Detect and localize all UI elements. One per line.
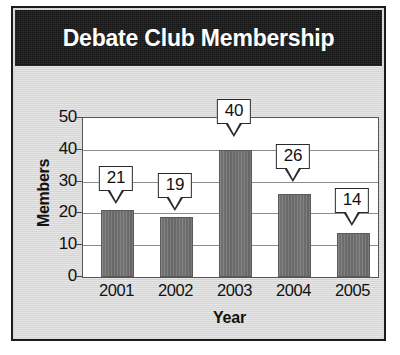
data-label-value: 14 xyxy=(335,188,369,213)
y-tick-label: 40 xyxy=(49,139,77,159)
data-label-callout-2003: 40 xyxy=(217,99,251,137)
data-label-value: 21 xyxy=(99,166,133,191)
bar-2004 xyxy=(278,194,311,277)
callout-pointer-icon xyxy=(226,124,242,137)
y-axis-tick-labels: 50 40 30 20 10 0 xyxy=(49,66,77,337)
x-tick-label: 2005 xyxy=(335,281,370,300)
chart-title-banner: Debate Club Membership xyxy=(15,10,382,66)
callout-pointer-icon xyxy=(108,191,124,204)
y-tick-label: 0 xyxy=(49,266,77,286)
x-tick-label: 2001 xyxy=(99,281,134,300)
bar-2002 xyxy=(160,217,193,277)
y-tick-label: 10 xyxy=(49,234,77,254)
callout-pointer-icon xyxy=(285,169,301,182)
callout-pointer-icon xyxy=(344,213,360,226)
data-label-value: 26 xyxy=(276,144,310,169)
x-tick-label: 2003 xyxy=(217,281,252,300)
chart-figure: Debate Club Membership Members 50 40 30 … xyxy=(11,6,386,341)
chart-body: Members 50 40 30 20 10 0 xyxy=(15,66,382,337)
data-label-callout-2002: 19 xyxy=(158,173,192,211)
x-axis-title: Year xyxy=(82,309,377,327)
x-tick-label: 2004 xyxy=(276,281,311,300)
x-tick-label: 2002 xyxy=(158,281,193,300)
data-label-callout-2004: 26 xyxy=(276,144,310,182)
bar-2005 xyxy=(337,233,370,278)
data-label-callout-2005: 14 xyxy=(335,188,369,226)
y-tick-label: 30 xyxy=(49,171,77,191)
data-label-callout-2001: 21 xyxy=(99,166,133,204)
bar-2003 xyxy=(219,150,252,277)
y-tick-label: 50 xyxy=(49,107,77,127)
chart-title: Debate Club Membership xyxy=(63,25,335,52)
y-tick-label: 20 xyxy=(49,202,77,222)
bar-2001 xyxy=(101,210,134,277)
data-label-value: 40 xyxy=(217,99,251,124)
x-axis-tick-labels: 2001 2002 2003 2004 2005 xyxy=(82,281,377,303)
data-label-value: 19 xyxy=(158,173,192,198)
callout-pointer-icon xyxy=(167,198,183,211)
